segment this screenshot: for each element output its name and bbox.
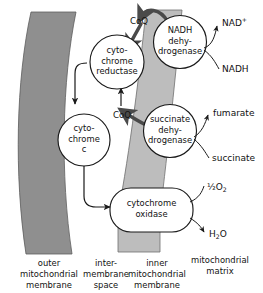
- cytochrome-c-line1: cyto-: [73, 123, 94, 133]
- succinate-dehydrogenase-line2: dehy-: [158, 125, 182, 135]
- water-label: H2O: [209, 229, 227, 240]
- fumarate-label: fumarate: [213, 108, 255, 118]
- electron-transport-chain-diagram: cyto- chrome reductase cyto- chrome c NA…: [0, 0, 263, 293]
- nad-plus-superscript: +: [242, 16, 247, 23]
- nadh-dehydrogenase-line2: dehy-: [168, 36, 192, 46]
- column-intermembrane-space-line3: space: [94, 280, 119, 290]
- coq-top-label: CoQ: [130, 16, 148, 26]
- column-matrix-line2: matrix: [206, 266, 233, 276]
- column-outer-membrane-line3: membrane: [26, 280, 72, 290]
- flow-reductase-to-cytochrome-c: [75, 63, 87, 104]
- succinate-dehydrogenase-line3: drogenase: [148, 135, 192, 145]
- nad-plus-label: NAD+: [222, 16, 247, 28]
- coq-mid-label: CoQ: [113, 110, 131, 120]
- water-o: O: [220, 229, 227, 239]
- cytochrome-reductase-line1: cyto-: [106, 45, 127, 55]
- column-outer-membrane-line2: mitochondrial: [20, 269, 78, 279]
- hook-nadh: [204, 50, 219, 69]
- column-inner-membrane-line1: inner: [146, 258, 168, 268]
- hook-succinate: [194, 139, 209, 158]
- half-oxygen-base: O: [216, 182, 223, 192]
- cytochrome-reductase-line2: chrome: [101, 56, 133, 66]
- succinate-label: succinate: [212, 153, 256, 163]
- succinate-dehydrogenase-line1: succinate: [150, 114, 190, 124]
- half-oxygen-subscript: 2: [223, 186, 227, 193]
- column-inner-membrane-line3: membrane: [134, 280, 180, 290]
- cytochrome-oxidase-line1: cytochrome: [127, 198, 177, 208]
- column-intermembrane-space-line1: inter-: [95, 258, 117, 268]
- hook-half-oxygen: [190, 186, 204, 202]
- cytochrome-c-line2: chrome: [68, 134, 100, 144]
- column-matrix-line1: mitochondrial: [191, 255, 249, 265]
- hook-water: [190, 218, 204, 232]
- cytochrome-reductase-line3: reductase: [96, 66, 138, 76]
- water-h: H: [209, 229, 216, 239]
- nadh-dehydrogenase-line3: drogenase: [158, 46, 202, 56]
- nadh-label: NADH: [222, 64, 249, 74]
- nadh-dehydrogenase-line1: NADH: [168, 25, 193, 35]
- column-inner-membrane-line2: mitochondrial: [128, 269, 186, 279]
- column-intermembrane-space-line2: membrane: [83, 269, 129, 279]
- half-oxygen-fraction: ½: [207, 182, 216, 192]
- cytochrome-c-line3: c: [82, 144, 87, 154]
- half-oxygen-label: ½O2: [207, 182, 227, 193]
- cytochrome-oxidase-line2: oxidase: [135, 209, 167, 219]
- column-outer-membrane-line1: outer: [38, 258, 61, 268]
- nad-plus-base: NAD: [222, 18, 242, 28]
